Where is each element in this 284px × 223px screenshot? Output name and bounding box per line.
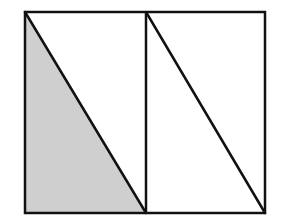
right-diagonal bbox=[146, 12, 265, 213]
geometry-diagram bbox=[0, 0, 284, 223]
